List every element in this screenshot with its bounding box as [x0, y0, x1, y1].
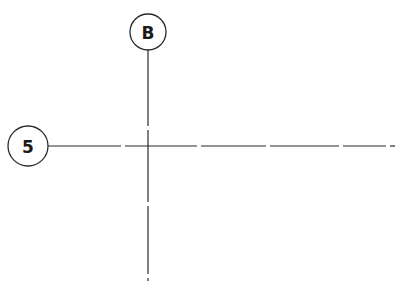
grid-diagram: B 5 [0, 0, 409, 295]
gridline-b: B [130, 14, 166, 281]
gridline-b-label: B [142, 23, 155, 43]
gridline-5: 5 [8, 126, 395, 166]
gridline-5-label: 5 [22, 137, 34, 157]
